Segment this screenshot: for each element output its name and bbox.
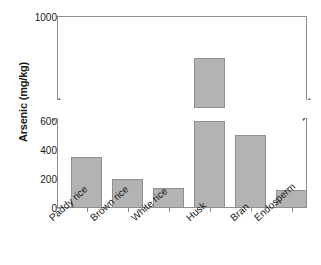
y-tick-label-200: 200: [23, 174, 57, 185]
x-tick-mark-0: [87, 208, 88, 212]
y-tick-label-400: 400: [23, 145, 57, 156]
axis-break-gap-right: [301, 100, 312, 118]
bars-group: [57, 16, 307, 208]
x-tick-mark-2: [169, 208, 170, 212]
x-tick-mark-3: [210, 208, 211, 212]
bar-husk-upper: [194, 58, 225, 108]
y-tick-label-1000: 1000: [23, 12, 57, 23]
bar-bran: [235, 135, 266, 208]
bar-chart: Arsenic (mg/kg) 1000 600 400 200 0: [0, 0, 321, 265]
x-tick-mark-5: [292, 208, 293, 212]
x-tick-mark-1: [128, 208, 129, 212]
axis-break-gap-left: [52, 100, 62, 118]
y-axis-ticks: 1000 600 400 200 0: [19, 0, 57, 265]
bar-husk-lower: [194, 121, 225, 208]
